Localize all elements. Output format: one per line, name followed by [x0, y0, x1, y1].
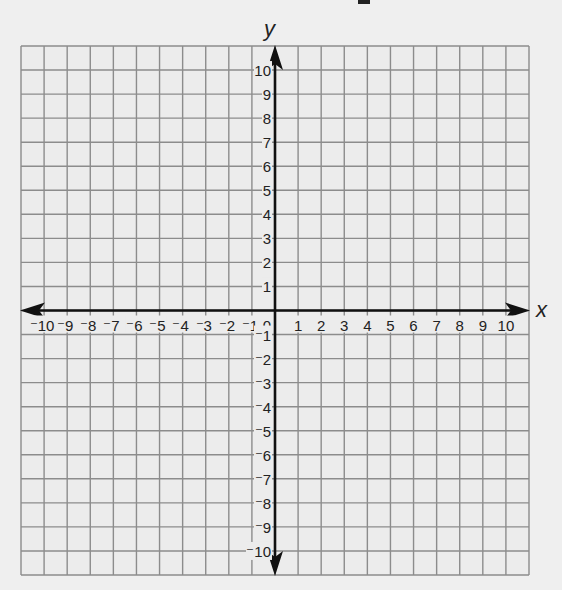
x-tick-label: ⁻7: [103, 317, 119, 334]
y-tick-label: ⁻7: [255, 471, 271, 488]
x-tick-label: 1: [294, 317, 302, 334]
y-tick-label: 3: [263, 230, 271, 247]
y-tick-label: ⁻2: [255, 351, 271, 368]
coordinate-grid-svg: ⁻10⁻9⁻8⁻7⁻6⁻5⁻4⁻3⁻2⁻1012345678910⁻10⁻9⁻8…: [0, 0, 562, 590]
y-tick-label: 4: [263, 206, 271, 223]
x-tick-label: 5: [386, 317, 394, 334]
x-tick-label: 3: [340, 317, 348, 334]
x-tick-label: ⁻10: [30, 317, 55, 334]
x-tick-label: 2: [317, 317, 325, 334]
y-tick-label: ⁻6: [255, 447, 271, 464]
x-tick-label: ⁻6: [126, 317, 142, 334]
y-tick-label: ⁻10: [246, 543, 271, 560]
y-tick-label: 7: [263, 134, 271, 151]
y-tick-label: 10: [254, 62, 271, 79]
coordinate-plane: ⁻10⁻9⁻8⁻7⁻6⁻5⁻4⁻3⁻2⁻1012345678910⁻10⁻9⁻8…: [0, 0, 562, 590]
x-axis-label: x: [535, 297, 548, 322]
x-tick-label: ⁻8: [80, 317, 96, 334]
x-tick-label: 7: [432, 317, 440, 334]
x-tick-label: 10: [498, 317, 515, 334]
y-tick-label: 1: [263, 278, 271, 295]
x-tick-label: 9: [479, 317, 487, 334]
y-tick-label: 5: [263, 182, 271, 199]
x-tick-label: ⁻9: [57, 317, 73, 334]
y-tick-label: ⁻1: [255, 327, 271, 344]
x-tick-label: 4: [363, 317, 371, 334]
y-axis-label: y: [262, 16, 277, 41]
y-tick-label: 6: [263, 158, 271, 175]
x-tick-label: 8: [456, 317, 464, 334]
y-tick-label: ⁻8: [255, 495, 271, 512]
y-tick-label: ⁻9: [255, 519, 271, 536]
y-tick-label: 2: [263, 254, 271, 271]
x-tick-label: 6: [409, 317, 417, 334]
y-tick-label: ⁻4: [255, 399, 271, 416]
answer-blank-mark: [358, 0, 370, 4]
y-tick-label: ⁻5: [255, 423, 271, 440]
y-tick-label: 9: [263, 86, 271, 103]
x-tick-label: ⁻2: [219, 317, 235, 334]
y-tick-label: ⁻3: [255, 375, 271, 392]
x-tick-label: ⁻3: [196, 317, 212, 334]
x-tick-label: ⁻5: [149, 317, 165, 334]
y-tick-label: 8: [263, 110, 271, 127]
x-tick-label: ⁻4: [172, 317, 188, 334]
